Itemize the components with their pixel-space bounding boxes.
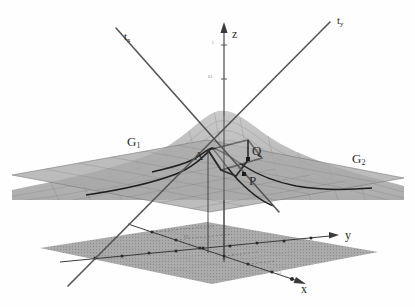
x-axis-label: x (301, 283, 307, 295)
point-q-label: Q (252, 144, 261, 157)
y-axis-label: y (345, 229, 351, 241)
ground-plane (40, 222, 378, 284)
curve-g1-label: G1 (127, 135, 140, 150)
ground-tick-label-3: 1.5 (277, 272, 281, 275)
point-a-label: A (194, 149, 203, 162)
z-tick-label-2: 0.5 (208, 76, 212, 79)
ground-tick-label-2: 1 (232, 254, 234, 257)
point-p-label: P (249, 174, 256, 187)
tangent-line-tx-label: tx (124, 31, 131, 44)
figure-canvas: tx ty z 1 0.5 y x G1 G2 A Q P 0.5 1 1.5 (0, 0, 415, 307)
tangent-line-ty-label: ty (337, 15, 344, 28)
z-axis-label: z (232, 28, 237, 40)
curve-g2-label: G2 (352, 152, 365, 167)
ground-tick-label-1: 0.5 (184, 236, 188, 239)
z-tick-label-1: 1 (212, 42, 214, 45)
